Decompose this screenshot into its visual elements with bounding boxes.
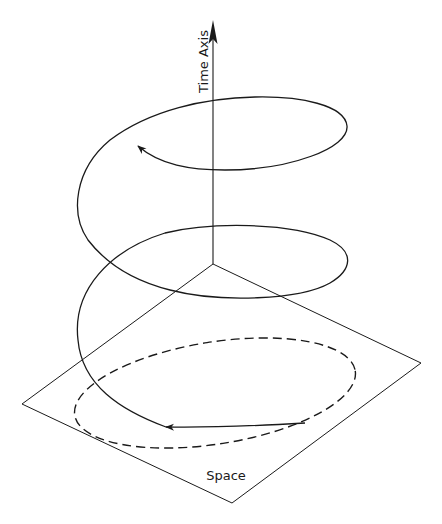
time-axis-label: Time Axis bbox=[196, 30, 211, 94]
spiral-time-space-diagram: Time Axis Space bbox=[0, 0, 442, 524]
plane-edge-front-right bbox=[232, 363, 421, 503]
plane-edge-back-left bbox=[22, 264, 213, 404]
plane-edge-front-left bbox=[22, 404, 232, 503]
dashed-projection-ellipse bbox=[67, 320, 363, 465]
plane-edge-back-right bbox=[213, 264, 421, 363]
diagram-canvas: Time Axis Space bbox=[0, 0, 442, 524]
space-label: Space bbox=[206, 468, 246, 483]
helix-bottom-segment bbox=[166, 423, 305, 427]
